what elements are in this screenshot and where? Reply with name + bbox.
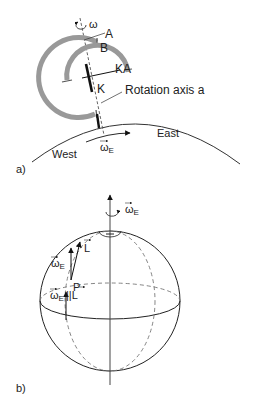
label-A: A <box>105 27 113 41</box>
panel-b: ωE P ωE L ωE||L b) <box>16 195 180 394</box>
east-label: East <box>157 127 179 139</box>
svg-text:ωE: ωE <box>51 257 65 271</box>
inner-ring-cap-left <box>62 80 72 82</box>
rotation-axis-label: Rotation axis a <box>125 83 205 97</box>
svg-text:L: L <box>84 242 90 254</box>
svg-text:ωE: ωE <box>100 141 114 155</box>
axis-omega-e-label: ωE <box>125 203 139 217</box>
l-vector-at-p <box>71 242 80 280</box>
gyrocompass-diagram: ω A B KA K Rotation axis a East West ωE … <box>0 0 269 408</box>
omega-e-label: ωE <box>100 141 114 155</box>
panel-a-label: a) <box>16 163 26 175</box>
panel-b-label: b) <box>16 382 26 394</box>
svg-text:ωE: ωE <box>125 203 139 217</box>
label-K: K <box>97 82 105 96</box>
label-B: B <box>100 41 108 55</box>
label-KA: KA <box>115 62 131 76</box>
earth-rotation-icon <box>106 210 118 216</box>
mount-post <box>97 114 99 128</box>
panel-a: ω A B KA K Rotation axis a East West ωE … <box>16 18 240 175</box>
vector-l-label: L <box>84 240 91 254</box>
omega-label: ω <box>89 18 98 30</box>
west-label: West <box>52 148 77 160</box>
svg-text:ωE||L: ωE||L <box>50 289 78 303</box>
vector-omega-e-label: ωE <box>51 257 65 271</box>
rotor-shaft <box>86 64 92 92</box>
